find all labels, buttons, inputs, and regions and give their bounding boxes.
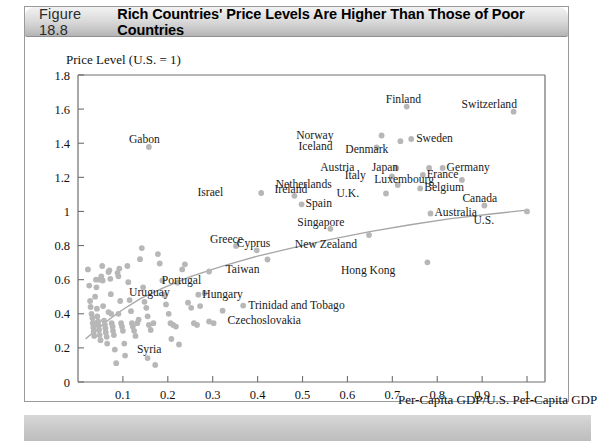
data-point — [120, 328, 126, 334]
data-point — [137, 256, 143, 262]
data-point — [94, 313, 100, 319]
data-point — [197, 303, 203, 309]
data-point — [112, 347, 118, 353]
country-label: Israel — [197, 187, 223, 199]
y-tick-label: 0.4 — [54, 307, 70, 321]
data-point-labeled — [425, 259, 431, 265]
data-point-labeled — [408, 136, 414, 142]
x-tick-label: 1 — [524, 388, 530, 402]
data-point — [182, 261, 188, 267]
country-label: Sweden — [416, 133, 453, 145]
data-point — [94, 306, 100, 312]
country-label: Syria — [137, 344, 161, 356]
data-point — [176, 342, 182, 348]
country-label: Ireland — [274, 184, 307, 196]
data-point — [136, 317, 142, 323]
country-label: Uruguay — [129, 287, 170, 299]
data-point-labeled — [428, 211, 434, 217]
data-point — [133, 333, 139, 339]
data-point — [86, 283, 92, 289]
data-point — [116, 311, 122, 317]
data-point — [104, 341, 110, 347]
data-point — [128, 308, 134, 314]
y-tick-label: 1.8 — [54, 69, 70, 83]
data-point-labeled — [206, 269, 212, 275]
data-point — [111, 332, 117, 338]
data-point — [125, 263, 131, 269]
x-tick-label: 0.1 — [115, 388, 131, 402]
y-tick-label: 1.4 — [54, 137, 70, 151]
data-point — [122, 353, 128, 359]
data-point — [125, 279, 131, 285]
country-label: Trinidad and Tobago — [248, 300, 344, 312]
data-point — [91, 333, 97, 339]
data-point — [87, 298, 93, 304]
country-label: Norway — [296, 130, 333, 142]
data-point — [142, 299, 148, 305]
data-point — [117, 298, 123, 304]
data-point — [100, 303, 106, 309]
data-point-labeled — [299, 201, 305, 207]
y-tick-label: 0 — [64, 376, 70, 390]
x-tick-label: 0.3 — [205, 388, 221, 402]
page-footer-bar — [24, 415, 591, 441]
data-point — [99, 263, 105, 269]
data-point — [145, 313, 151, 319]
country-label: Italy — [345, 170, 366, 182]
data-point — [163, 302, 169, 308]
data-point — [116, 273, 122, 279]
data-point — [148, 327, 154, 333]
data-point — [155, 251, 161, 257]
data-point — [97, 332, 103, 338]
country-label: Japan — [372, 162, 398, 174]
y-tick-label: 1 — [64, 205, 70, 219]
x-tick-label: 0.2 — [160, 388, 176, 402]
data-point — [166, 311, 172, 317]
data-point — [108, 291, 114, 297]
data-point — [94, 284, 100, 290]
country-label: Hong Kong — [341, 265, 395, 277]
x-tick-label: 0.8 — [429, 388, 445, 402]
data-point — [104, 334, 110, 340]
data-point-labeled — [169, 336, 175, 342]
data-point — [139, 245, 145, 251]
data-point — [157, 261, 163, 267]
country-label: Switzerland — [462, 99, 517, 111]
data-point-labeled — [258, 190, 264, 196]
data-point — [92, 294, 98, 300]
x-tick-label: 0.7 — [385, 388, 401, 402]
country-label: U.K. — [337, 188, 360, 200]
trend-curve — [86, 210, 527, 338]
data-point — [188, 305, 194, 311]
y-tick-label: 0.8 — [54, 239, 70, 253]
country-label: Hungary — [202, 289, 243, 301]
data-point — [97, 277, 103, 283]
x-tick-label: 0.4 — [250, 388, 266, 402]
data-point — [151, 320, 157, 326]
x-tick-label: 0.9 — [474, 388, 490, 402]
data-point — [116, 266, 122, 272]
data-point — [179, 267, 185, 273]
data-point — [143, 305, 149, 311]
data-point — [96, 327, 102, 333]
data-point — [194, 322, 200, 328]
data-point — [145, 355, 151, 361]
data-point — [173, 324, 179, 330]
country-label: Gabon — [129, 134, 160, 146]
data-point — [106, 309, 112, 315]
data-point-labeled — [240, 303, 246, 309]
country-label: Taiwan — [226, 264, 260, 276]
data-point — [85, 267, 91, 273]
data-point-labeled — [220, 308, 226, 314]
y-tick-label: 0.2 — [54, 341, 70, 355]
data-point — [107, 276, 113, 282]
data-point — [113, 360, 119, 366]
x-tick-label: 0.6 — [340, 388, 356, 402]
data-point-labeled — [417, 186, 423, 192]
country-label: Canada — [462, 193, 497, 205]
country-label: Denmark — [345, 144, 388, 156]
data-point-labeled — [524, 209, 530, 215]
y-tick-label: 1.2 — [54, 171, 70, 185]
data-point — [185, 300, 191, 306]
data-point — [121, 341, 127, 347]
